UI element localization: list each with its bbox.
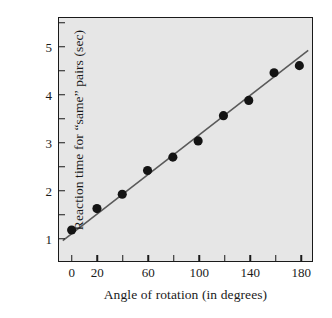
y-tick-mark-minor xyxy=(59,118,65,120)
y-tick-mark xyxy=(59,142,65,144)
x-axis-title: Angle of rotation (in degrees) xyxy=(58,287,313,303)
x-tick-mark xyxy=(199,255,201,261)
y-axis-title: Reaction time for “same” pairs (sec) xyxy=(71,6,87,254)
y-tick-mark-minor xyxy=(59,70,65,72)
data-point xyxy=(92,204,101,213)
y-tick-mark-minor xyxy=(59,166,65,168)
data-points xyxy=(67,61,304,235)
x-tick-label: 0 xyxy=(69,266,76,279)
x-tick-label: 20 xyxy=(91,266,104,279)
x-tick-mark xyxy=(224,255,226,261)
data-point xyxy=(269,68,278,77)
y-tick-mark xyxy=(59,238,65,240)
data-point xyxy=(244,96,253,105)
y-tick-mark xyxy=(59,190,65,192)
y-tick-mark-minor xyxy=(59,22,65,24)
x-tick-mark xyxy=(301,255,303,261)
x-tick-mark xyxy=(97,255,99,261)
data-point xyxy=(194,136,203,145)
plot-area: 12345 02060100140180 Reaction time for “… xyxy=(58,17,313,262)
x-tick-label: 180 xyxy=(292,266,312,279)
x-tick-mark xyxy=(275,255,277,261)
x-tick-label: 100 xyxy=(190,266,210,279)
x-tick-mark xyxy=(148,255,150,261)
x-tick-mark xyxy=(71,255,73,261)
x-tick-mark xyxy=(173,255,175,261)
y-tick-mark xyxy=(59,46,65,48)
y-tick-mark-minor xyxy=(59,214,65,216)
chart-canvas xyxy=(59,18,312,261)
data-point xyxy=(219,111,228,120)
y-tick-label: 3 xyxy=(46,136,53,149)
y-tick-label: 5 xyxy=(46,40,53,53)
y-tick-mark xyxy=(59,94,65,96)
data-point xyxy=(118,190,127,199)
y-tick-label: 2 xyxy=(46,184,53,197)
x-tick-mark xyxy=(122,255,124,261)
data-point xyxy=(168,153,177,162)
y-tick-label: 4 xyxy=(46,88,53,101)
x-tick-label: 60 xyxy=(142,266,155,279)
x-tick-label: 140 xyxy=(241,266,261,279)
x-tick-mark xyxy=(250,255,252,261)
chart-figure: 12345 02060100140180 Reaction time for “… xyxy=(0,0,332,318)
y-tick-label: 1 xyxy=(46,232,53,245)
data-point xyxy=(143,166,152,175)
data-point xyxy=(295,61,304,70)
